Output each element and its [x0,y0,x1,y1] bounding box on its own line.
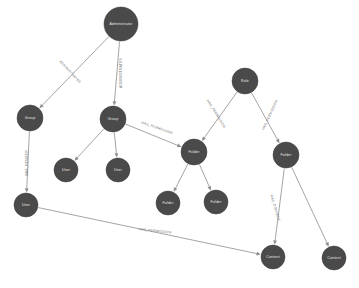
node-label: User [114,168,123,172]
edge-label: HAS_MEMBER [25,150,29,176]
node-label: Folder [280,153,292,157]
graph-node-folder_mid[interactable]: Folder [181,139,207,165]
graph-node-group_mid[interactable]: Group [100,106,126,132]
edge-arrowhead [256,252,261,256]
node-label: Role [241,79,249,83]
edge-arrowhead [25,188,29,192]
edge-line [42,37,109,106]
node-label: Folder [188,150,200,154]
graph-node-folder_right[interactable]: Folder [273,142,299,168]
edge-label: HAS_PERMISSION [138,227,172,234]
node-label: Content [266,255,280,259]
node-label: User [62,168,71,172]
graph-edge [199,164,211,190]
graph-node-content_2[interactable]: Content [322,246,346,270]
node-label: Content [327,256,341,260]
nodes-layer: AdministratorGroupGroupUserUserUserRoleF… [14,7,346,270]
graph-node-user_left[interactable]: User [14,193,38,217]
edge-line [199,164,209,187]
graph-canvas: ADMINISTRATESADMINISTRATESHAS_MEMBERHAS_… [0,0,359,288]
node-label: Folder [210,200,222,204]
edge-arrowhead [273,240,277,244]
edge-label: ADMINISTRATES [119,58,123,88]
edge-line [292,167,328,243]
edge-line [77,129,104,158]
node-label: Group [25,116,36,120]
node-label: User [22,203,31,207]
graph-edge [292,167,329,246]
graph-node-role[interactable]: Role [232,68,258,94]
edge-label: HAS_PERMISSION [206,99,227,129]
graph-node-content[interactable]: Content [261,245,285,269]
node-label: Administrator [109,22,133,26]
graph-edge [114,132,118,157]
graph-node-user_a[interactable]: User [54,158,78,182]
graph-node-folder_c[interactable]: Folder [156,191,180,215]
graph-node-folder_d[interactable]: Folder [204,190,228,214]
graph-node-administrator[interactable]: Administrator [104,7,138,41]
edge-label: ADMINISTRATES [58,60,82,85]
node-label: Folder [162,201,174,205]
graph-node-user_b[interactable]: User [106,158,130,182]
edge-arrowhead [202,137,206,142]
edge-arrowhead [113,101,117,105]
graph-node-group_left[interactable]: Group [17,105,43,131]
edge-line [175,164,188,189]
graph-edge [74,129,103,161]
edge-label: HAS_PERMISSION [141,121,174,136]
node-label: Group [108,117,119,121]
edge-line [114,132,116,154]
graph-diagram: ADMINISTRATESADMINISTRATESHAS_MEMBERHAS_… [0,0,359,288]
edge-arrowhead [114,153,118,157]
graph-edge [174,164,188,192]
